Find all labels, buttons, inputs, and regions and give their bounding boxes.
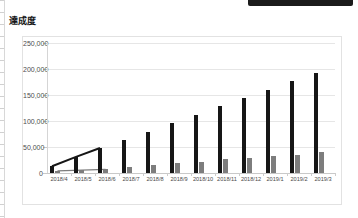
bar-group[interactable]: 2018/9	[167, 43, 191, 173]
bar-series-2[interactable]	[199, 162, 204, 173]
chart-plot-inner: 050,000100,000150,000200,000250,000 2018…	[23, 37, 341, 204]
y-axis-label: 50,000	[23, 144, 43, 151]
bar-group[interactable]: 2019/1	[263, 43, 287, 173]
x-axis-label: 2018/10	[193, 176, 213, 182]
x-axis-tick	[143, 173, 144, 176]
x-axis-tick	[311, 173, 312, 176]
bar-series-1[interactable]	[122, 140, 126, 173]
y-axis-label: 150,000	[23, 92, 43, 99]
x-axis-label: 2018/6	[98, 176, 115, 182]
y-axis-label: 250,000	[23, 40, 43, 47]
x-axis-label: 2018/9	[170, 176, 187, 182]
y-axis-label: 0	[23, 170, 43, 177]
x-axis-label: 2018/11	[217, 176, 237, 182]
bar-series-1[interactable]	[146, 132, 150, 173]
x-axis-label: 2019/3	[314, 176, 331, 182]
bar-group[interactable]: 2018/8	[143, 43, 167, 173]
x-axis-label: 2018/12	[241, 176, 261, 182]
x-axis-label: 2018/7	[122, 176, 139, 182]
bar-series-2[interactable]	[151, 165, 156, 173]
bar-series-2[interactable]	[127, 167, 132, 173]
x-axis-tick	[263, 173, 264, 176]
bar-series-1[interactable]	[290, 81, 294, 173]
bar-group[interactable]: 2018/6	[95, 43, 119, 173]
bar-series-1[interactable]	[314, 73, 318, 173]
chart-title: 達成度	[9, 14, 36, 27]
x-axis-tick	[239, 173, 240, 176]
bar-series-1[interactable]	[74, 157, 78, 173]
x-axis-tick	[167, 173, 168, 176]
bar-series-1[interactable]	[266, 90, 270, 173]
y-axis-label: 100,000	[23, 118, 43, 125]
bar-series-2[interactable]	[319, 152, 324, 173]
bar-series-2[interactable]	[271, 156, 276, 173]
bar-group[interactable]: 2018/10	[191, 43, 215, 173]
bar-series-2[interactable]	[175, 163, 180, 173]
bar-series-1[interactable]	[242, 98, 246, 173]
x-axis-tick	[215, 173, 216, 176]
bar-series-2[interactable]	[55, 171, 60, 173]
x-axis-tick	[119, 173, 120, 176]
x-axis-label: 2018/5	[74, 176, 91, 182]
bar-group[interactable]: 2019/3	[311, 43, 335, 173]
bar-series-2[interactable]	[79, 170, 84, 173]
bar-group[interactable]: 2018/11	[215, 43, 239, 173]
bar-group[interactable]: 2018/4	[47, 43, 71, 173]
bar-group[interactable]: 2018/7	[119, 43, 143, 173]
bar-series-2[interactable]	[223, 159, 228, 173]
top-dark-strip[interactable]	[248, 0, 353, 6]
left-ruler-line	[4, 0, 5, 218]
bar-series-1[interactable]	[170, 123, 174, 173]
x-axis-label: 2018/8	[146, 176, 163, 182]
x-axis-label: 2019/1	[266, 176, 283, 182]
chart-plot-frame: 050,000100,000150,000200,000250,000 2018…	[22, 36, 342, 205]
x-axis-tick	[95, 173, 96, 176]
bar-series-1[interactable]	[194, 115, 198, 173]
x-axis-tick	[335, 173, 336, 176]
bar-series-2[interactable]	[295, 155, 300, 173]
chart-page-root: 達成度 050,000100,000150,000200,000250,000 …	[0, 0, 358, 218]
x-axis-tick	[287, 173, 288, 176]
bar-series-1[interactable]	[98, 148, 102, 173]
bar-series-1[interactable]	[50, 166, 54, 173]
bar-group[interactable]: 2018/5	[71, 43, 95, 173]
bar-series-1[interactable]	[218, 106, 222, 173]
x-axis-tick	[71, 173, 72, 176]
x-axis-tick	[191, 173, 192, 176]
bar-group[interactable]: 2018/12	[239, 43, 263, 173]
bar-series-2[interactable]	[103, 169, 108, 173]
y-axis-label: 200,000	[23, 66, 43, 73]
bar-series-2[interactable]	[247, 158, 252, 173]
x-axis-label: 2019/2	[290, 176, 307, 182]
plot-area: 2018/42018/52018/62018/72018/82018/92018…	[47, 43, 335, 173]
x-axis-label: 2018/4	[50, 176, 67, 182]
bar-group[interactable]: 2019/2	[287, 43, 311, 173]
